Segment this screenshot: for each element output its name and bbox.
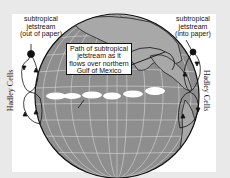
callout-line-4: Gulf of Mexico	[67, 67, 131, 74]
left-jetstream-line-3: (out of paper)	[18, 30, 64, 38]
callout-line-2: jetstream as it	[67, 52, 131, 59]
left-hadley-cells-label: Hadley Cells	[6, 70, 15, 112]
left-jetstream-label: subtropical jetstream (out of paper)	[18, 15, 64, 38]
right-jetstream-label: subtropical jetstream (into paper)	[170, 15, 216, 38]
right-jetstream-line-1: subtropical	[170, 15, 216, 23]
left-jetstream-line-1: subtropical	[18, 15, 64, 23]
globe	[35, 14, 199, 178]
callout-line-1: Path of subtropical	[67, 45, 131, 52]
right-jetstream-line-2: jetstream	[170, 23, 216, 31]
right-hadley-cells-label: Hadley Cells	[202, 70, 211, 112]
callout-line-3: flows over northern	[67, 60, 131, 67]
left-jetstream-line-2: jetstream	[18, 23, 64, 31]
right-jetstream-line-3: (into paper)	[170, 30, 216, 38]
jetstream-path-callout: Path of subtropical jetstream as it flow…	[66, 43, 132, 75]
